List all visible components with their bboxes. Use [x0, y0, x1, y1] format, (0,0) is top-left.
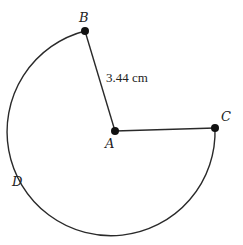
label-a: A [104, 136, 114, 151]
point-c [211, 124, 219, 132]
radius-ac [115, 128, 215, 131]
label-d: D [11, 174, 23, 189]
point-a [111, 127, 119, 135]
radius-measure-label: 3.44 cm [106, 70, 148, 85]
label-c: C [221, 109, 231, 124]
sector-diagram: B A C D 3.44 cm [0, 0, 243, 245]
label-b: B [78, 10, 89, 25]
point-b [81, 27, 89, 35]
arc-bdc [7, 31, 215, 236]
